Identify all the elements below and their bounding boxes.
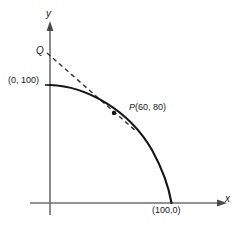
x-intercept-label: (100,0) [152,206,181,215]
y-intercept-label: (0, 100) [8,76,39,85]
point-p-coords: (60, 80) [135,102,166,112]
x-axis-label: x [225,194,230,204]
y-axis-arrowhead [47,21,54,31]
tangent-line [47,53,137,132]
math-figure: y x Q (0, 100) P(60, 80) (100,0) [0,0,240,234]
y-axis-label: y [46,9,51,19]
figure-canvas [0,0,240,234]
point-q-label: Q [36,46,44,56]
point-p-label: P(60, 80) [129,103,166,112]
point-p-marker [112,111,116,115]
